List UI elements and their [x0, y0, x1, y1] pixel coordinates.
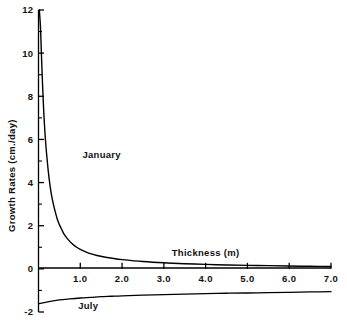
x-tick-label: 4.0 [198, 273, 212, 284]
y-tick-label: 4 [28, 177, 34, 188]
y-tick-label: 10 [22, 48, 33, 59]
x-tick-label: 3.0 [157, 273, 171, 284]
y-tick-label: 6 [28, 134, 34, 145]
x-tick-label: 7.0 [324, 273, 338, 284]
figure-container: -2024681012 1.02.03.04.05.06.07.0 Januar… [0, 0, 347, 320]
y-tick-label: 8 [28, 91, 34, 102]
y-axis-tick-labels: -2024681012 [22, 4, 34, 317]
growth-rate-line-chart: -2024681012 1.02.03.04.05.06.07.0 Januar… [0, 0, 347, 320]
x-tick-label: 1.0 [73, 273, 87, 284]
y-tick-label: 12 [22, 4, 33, 15]
series-line-january [39, 10, 331, 266]
series-label-july: July [78, 300, 99, 311]
x-axis-title: Thickness (m) [172, 247, 240, 258]
y-tick-label: -2 [24, 306, 33, 317]
y-tick-label: 2 [28, 220, 34, 231]
series-label-january: January [82, 149, 121, 160]
x-tick-label: 2.0 [115, 273, 129, 284]
y-tick-label: 0 [28, 263, 34, 274]
x-axis-tick-labels: 1.02.03.04.05.06.07.0 [73, 273, 338, 284]
x-tick-label: 6.0 [282, 273, 296, 284]
x-tick-label: 5.0 [240, 273, 254, 284]
y-axis-title: Growth Rates (cm./day) [6, 119, 17, 232]
